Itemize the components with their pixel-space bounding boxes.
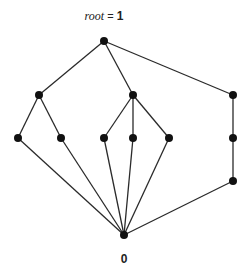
root-label-var: root	[85, 9, 105, 23]
edge-b2-bottom	[124, 138, 133, 235]
edge-b-b3	[133, 95, 169, 138]
node-top	[100, 37, 108, 45]
edge-a-a2	[39, 95, 61, 138]
edge-c2-bottom	[124, 181, 233, 235]
node-b2	[129, 134, 137, 142]
edge-top-a	[39, 41, 104, 95]
node-a	[35, 91, 43, 99]
edges-group	[18, 41, 233, 235]
edge-top-c	[104, 41, 233, 95]
node-c	[229, 91, 237, 99]
nodes-group	[14, 37, 237, 239]
node-bottom	[120, 231, 128, 239]
bottom-label: 0	[121, 252, 128, 266]
root-label: root = 1	[85, 9, 124, 23]
node-c2	[229, 177, 237, 185]
edge-top-b	[104, 41, 133, 95]
edge-b-b1	[104, 95, 133, 138]
node-c1	[229, 134, 237, 142]
node-a2	[57, 134, 65, 142]
node-b3	[165, 134, 173, 142]
node-b1	[100, 134, 108, 142]
hasse-diagram: root = 1 0	[0, 0, 251, 273]
node-a1	[14, 134, 22, 142]
edge-a-a1	[18, 95, 39, 138]
root-label-value: 1	[117, 9, 124, 23]
node-b	[129, 91, 137, 99]
root-label-eq: =	[104, 10, 117, 22]
edge-b3-bottom	[124, 138, 169, 235]
